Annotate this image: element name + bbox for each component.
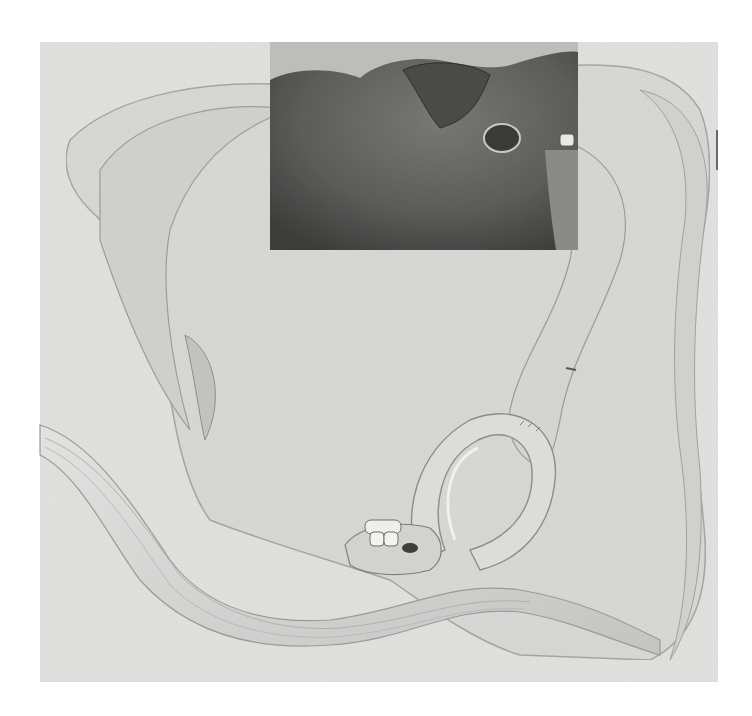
illustration-canvas: [0, 0, 752, 716]
margin-mark: [716, 130, 718, 170]
inset-ring-opening: [484, 124, 520, 152]
inset-small-stump: [560, 134, 574, 146]
anatomical-illustration: [0, 0, 752, 716]
dark-inset-panel: [270, 42, 578, 250]
